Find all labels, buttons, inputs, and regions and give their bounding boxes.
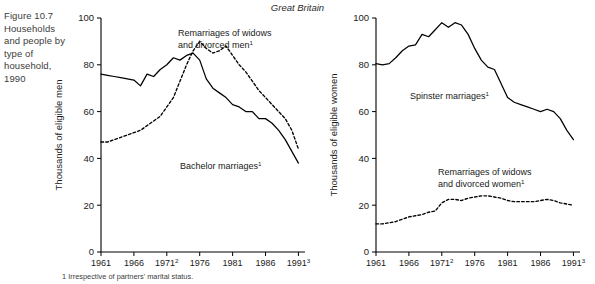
x-tick-label: 19913 (562, 257, 586, 269)
x-tick-label: 1966 (124, 258, 144, 268)
y-tick-label: 40 (358, 153, 369, 164)
x-tick-label: 1966 (399, 258, 419, 268)
series-line-dashed (376, 196, 573, 224)
y-tick-label: 0 (364, 246, 369, 257)
series-line-dashed (101, 41, 298, 149)
x-tick-label: 1961 (91, 258, 111, 268)
x-tick-label: 19712 (155, 257, 179, 269)
series-annotation: Remarriages of widowsand divorced women1 (438, 167, 532, 189)
y-tick-label: 20 (83, 200, 94, 211)
x-tick-label: 1981 (223, 258, 243, 268)
y-axis-title: Thousands of eligible men (53, 80, 64, 191)
charts-svg: 0204060801001961196619712197619811986199… (0, 0, 595, 284)
y-tick-label: 60 (358, 106, 369, 117)
x-tick-label: 1961 (366, 258, 386, 268)
x-tick-label: 1981 (498, 258, 518, 268)
series-annotation: Remarriages of widowsand divorced men1 (178, 28, 272, 50)
series-line-solid (376, 23, 573, 140)
chart-men: 0204060801001961196619712197619811986199… (53, 12, 311, 268)
y-tick-label: 80 (358, 59, 369, 70)
y-tick-label: 100 (78, 12, 94, 23)
series-annotation: Spinster marriages1 (410, 90, 490, 102)
y-tick-label: 100 (353, 12, 369, 23)
y-tick-label: 60 (83, 106, 94, 117)
x-tick-label: 1986 (531, 258, 551, 268)
y-tick-label: 40 (83, 153, 94, 164)
y-tick-label: 20 (358, 200, 369, 211)
chart-women: 0204060801001961196619712197619811986199… (328, 12, 586, 268)
x-tick-label: 1976 (190, 258, 210, 268)
series-line-solid (101, 53, 298, 163)
x-tick-label: 19712 (430, 257, 454, 269)
x-tick-label: 1976 (465, 258, 485, 268)
series-annotation: Bachelor marriages1 (180, 160, 262, 172)
y-tick-label: 80 (83, 59, 94, 70)
y-tick-label: 0 (89, 246, 94, 257)
x-tick-label: 1986 (256, 258, 276, 268)
y-axis-title: Thousands of eligible women (328, 73, 339, 196)
x-tick-label: 19913 (287, 257, 311, 269)
